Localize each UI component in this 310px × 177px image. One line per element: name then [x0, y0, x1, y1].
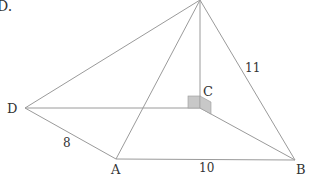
vertex-label-d: D	[7, 101, 17, 116]
right-angle-square-left	[188, 96, 200, 108]
problem-marker: D.	[0, 0, 12, 14]
vertex-label-c: C	[203, 84, 213, 99]
measure-apex-b: 11	[245, 61, 260, 75]
vertex-label-a: A	[110, 162, 121, 177]
edge-a-b	[116, 159, 295, 160]
edge-d-a	[25, 108, 116, 159]
edge-apex-d	[25, 0, 200, 108]
edge-apex-a	[116, 0, 200, 159]
pyramid-diagram: D. D C A B 8 10 11	[0, 0, 310, 177]
edge-apex-b	[200, 0, 295, 160]
vertex-label-b: B	[296, 162, 306, 177]
measure-da: 8	[63, 136, 71, 150]
edge-c-b	[200, 108, 295, 160]
measure-ab: 10	[199, 161, 214, 175]
